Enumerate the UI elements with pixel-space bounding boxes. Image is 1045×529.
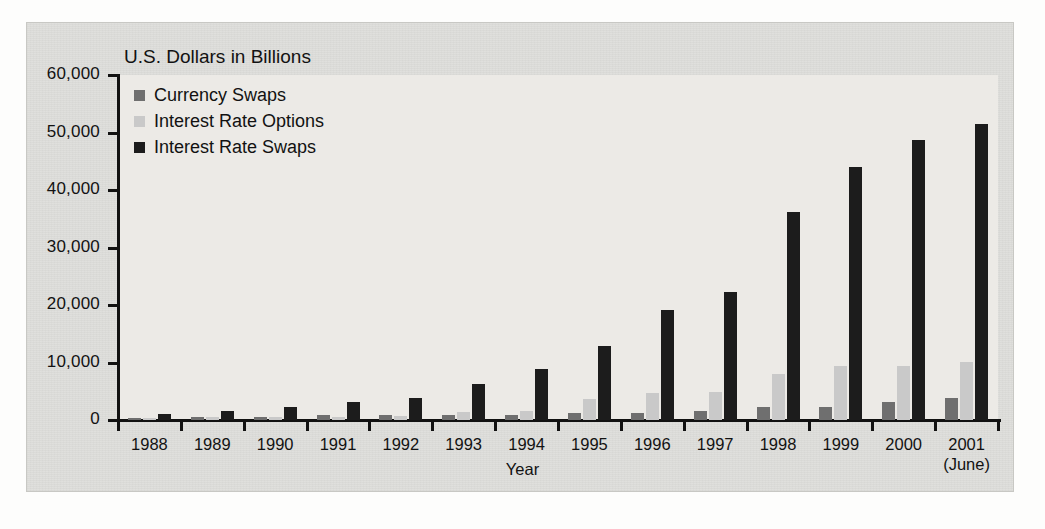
x-axis-tick-label-year: 1998: [760, 435, 797, 453]
x-axis-tick: [871, 422, 874, 431]
bar: [631, 413, 644, 420]
y-axis-tick: [108, 362, 118, 365]
x-axis-tick: [808, 422, 811, 431]
bar: [661, 310, 674, 420]
bar: [191, 417, 204, 420]
bar: [379, 415, 392, 420]
bar: [646, 393, 659, 420]
y-axis-tick-label: 40,000: [8, 179, 100, 199]
x-axis-tick: [368, 422, 371, 431]
x-axis-tick-label-year: 1990: [257, 435, 294, 453]
bar: [583, 399, 596, 420]
x-axis-tick-label-year: 2000: [885, 435, 922, 453]
x-axis-tick: [683, 422, 686, 431]
y-axis-tick-label: 10,000: [8, 352, 100, 372]
x-axis-tick: [997, 422, 1000, 431]
bar: [505, 415, 518, 420]
bar: [409, 398, 422, 420]
legend-item: Interest Rate Options: [134, 108, 324, 134]
bar: [221, 411, 234, 420]
x-axis-tick: [557, 422, 560, 431]
bar: [442, 415, 455, 420]
bar: [849, 167, 862, 420]
x-axis-tick-label-year: 1989: [194, 435, 231, 453]
x-axis-tick-label-year: 1993: [445, 435, 482, 453]
chart-legend: Currency SwapsInterest Rate OptionsInter…: [134, 82, 324, 160]
bar: [724, 292, 737, 420]
bar: [960, 362, 973, 420]
x-axis-tick: [243, 422, 246, 431]
x-axis-tick-label-year: 1991: [320, 435, 357, 453]
bar: [945, 398, 958, 420]
y-axis-tick: [108, 132, 118, 135]
x-axis-tick: [934, 422, 937, 431]
bar: [269, 417, 282, 420]
y-axis-tick: [108, 74, 118, 77]
bar: [347, 402, 360, 420]
legend-item: Currency Swaps: [134, 82, 324, 108]
bar: [598, 346, 611, 420]
bar: [143, 418, 156, 420]
bar: [757, 407, 770, 420]
bar: [535, 369, 548, 420]
bar: [394, 416, 407, 420]
bar: [897, 366, 910, 420]
bar: [457, 412, 470, 420]
x-axis-tick: [180, 422, 183, 431]
x-axis-tick-label-year: 1992: [382, 435, 419, 453]
bar: [206, 417, 219, 420]
y-axis-tick-label: 0: [8, 409, 100, 429]
legend-item-label: Currency Swaps: [154, 85, 286, 106]
x-axis-tick: [117, 422, 120, 431]
x-axis-tick-label-year: 1995: [571, 435, 608, 453]
y-axis-tick-label: 20,000: [8, 294, 100, 314]
y-axis-tick-label: 60,000: [8, 64, 100, 84]
legend-swatch-icon: [134, 116, 145, 127]
bar: [520, 411, 533, 420]
bar: [158, 414, 171, 420]
bar: [332, 417, 345, 420]
y-axis-tick-label: 50,000: [8, 122, 100, 142]
legend-item-label: Interest Rate Options: [154, 111, 324, 132]
x-axis-tick: [746, 422, 749, 431]
bar: [772, 374, 785, 420]
bar: [912, 140, 925, 420]
y-axis-tick: [108, 189, 118, 192]
bar: [317, 415, 330, 420]
bar: [882, 402, 895, 420]
bar: [787, 212, 800, 421]
bar: [284, 407, 297, 420]
y-axis-tick: [108, 304, 118, 307]
x-axis-tick-label-year: 1996: [634, 435, 671, 453]
x-axis-tick: [494, 422, 497, 431]
legend-item-label: Interest Rate Swaps: [154, 137, 316, 158]
x-axis-tick-label-year: 1999: [822, 435, 859, 453]
bar: [472, 384, 485, 420]
chart-figure: U.S. Dollars in Billions 60,00050,00040,…: [0, 0, 1045, 529]
legend-item: Interest Rate Swaps: [134, 134, 324, 160]
x-axis-tick-label-year: 2001: [948, 435, 985, 453]
x-axis-title: Year: [0, 460, 1045, 479]
x-axis-tick-label-year: 1994: [508, 435, 545, 453]
bar: [834, 366, 847, 420]
legend-swatch-icon: [134, 90, 145, 101]
x-axis-tick: [306, 422, 309, 431]
y-axis-tick-label: 30,000: [8, 237, 100, 257]
bar: [568, 413, 581, 420]
bar: [709, 392, 722, 420]
y-axis-title: U.S. Dollars in Billions: [124, 46, 311, 68]
legend-swatch-icon: [134, 142, 145, 153]
x-axis-tick-label-year: 1997: [697, 435, 734, 453]
x-axis-tick-label-year: 1988: [131, 435, 168, 453]
bar: [975, 124, 988, 420]
x-axis-tick: [431, 422, 434, 431]
bar: [128, 418, 141, 420]
bar: [694, 411, 707, 420]
y-axis-tick: [108, 247, 118, 250]
bar: [819, 407, 832, 420]
x-axis-tick: [620, 422, 623, 431]
bar: [254, 417, 267, 420]
